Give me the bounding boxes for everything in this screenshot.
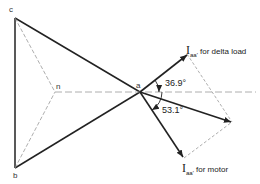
arrow-motor-current <box>140 92 183 157</box>
phasor-diagram-canvas <box>0 0 260 184</box>
arrow-total-current <box>140 92 231 122</box>
current-label-delta-load: Iaa' for delta load <box>186 44 246 58</box>
vertex-label-a: a <box>136 82 140 90</box>
arc-angle-motor <box>152 92 162 110</box>
vertex-label-b: b <box>13 172 17 180</box>
angle-label-delta: 36.9° <box>165 79 186 88</box>
line-c-a <box>15 18 140 92</box>
current-caption: for delta load <box>200 47 246 56</box>
line-b-a <box>15 92 140 168</box>
dashed-motor-to-sum <box>184 122 232 158</box>
current-label-motor: Iaa' for motor <box>182 162 228 176</box>
dashed-delta-to-sum <box>187 54 232 122</box>
current-subscript: aa' <box>190 52 198 58</box>
vertex-label-c: c <box>9 6 13 14</box>
angle-label-motor: 53.1° <box>162 106 183 115</box>
arc-angle-delta <box>155 80 159 92</box>
vertex-label-n: n <box>56 83 60 91</box>
current-caption: for motor <box>196 165 228 174</box>
current-subscript: aa' <box>186 170 194 176</box>
